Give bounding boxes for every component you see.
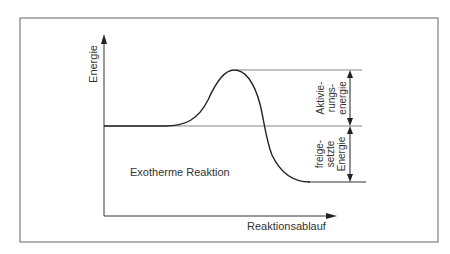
- y-axis-arrow-icon: [101, 34, 107, 44]
- outer-frame: [20, 18, 438, 242]
- svg-text:rungs-: rungs-: [326, 84, 337, 112]
- activation-energy-label: Aktivie- rungs- energie: [315, 81, 348, 115]
- activation-arrow-down-icon: [347, 118, 353, 126]
- reaction-label: Exotherme Reaktion: [130, 166, 230, 178]
- svg-text:Energie: Energie: [336, 136, 347, 171]
- y-axis-label: Energie: [87, 45, 99, 83]
- x-axis-arrow-icon: [326, 213, 337, 219]
- released-arrow-up-icon: [347, 126, 353, 134]
- released-arrow-down-icon: [347, 174, 353, 182]
- energy-diagram: Energie Reaktionsablauf Exotherme Reakti…: [0, 0, 450, 254]
- svg-text:Aktivie-: Aktivie-: [315, 82, 326, 115]
- released-energy-label: freige- setzte Energie: [314, 136, 347, 171]
- svg-text:energie: energie: [337, 81, 348, 115]
- svg-text:freige-: freige-: [314, 140, 325, 168]
- x-axis-label: Reaktionsablauf: [247, 220, 327, 232]
- svg-text:setzte: setzte: [325, 140, 336, 167]
- activation-arrow-up-icon: [347, 70, 353, 78]
